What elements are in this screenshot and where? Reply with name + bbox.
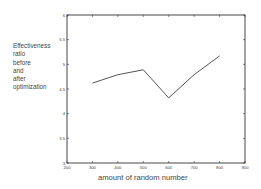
x-tick-label: 600 <box>165 165 173 170</box>
x-tick-label: 200 <box>64 165 72 170</box>
y-tick-label: 4.5 <box>59 87 65 92</box>
y-tick-label: 4 <box>63 111 66 116</box>
plot-axes <box>67 15 245 163</box>
axis-ticks: 20030040050060070080090033.544.555.56 <box>59 13 249 171</box>
plot-frame <box>67 15 245 163</box>
x-tick-label: 300 <box>89 165 97 170</box>
x-tick-label: 800 <box>216 165 224 170</box>
y-axis-label-line: Effectiveness <box>13 42 50 50</box>
y-axis-label-line: after <box>13 75 50 83</box>
x-tick-label: 700 <box>191 165 199 170</box>
x-axis-label: amount of random number <box>98 173 188 182</box>
y-axis-label-line: and <box>13 67 50 75</box>
y-axis-label-line: ratio <box>13 50 50 58</box>
y-axis-label-line: before <box>13 59 50 67</box>
x-tick-label: 500 <box>140 165 148 170</box>
line-chart: 20030040050060070080090033.544.555.56 <box>0 0 261 189</box>
y-tick-label: 6 <box>63 13 66 18</box>
x-tick-label: 400 <box>114 165 122 170</box>
y-axis-label-line: optimization <box>13 83 50 91</box>
x-tick-label: 900 <box>242 165 250 170</box>
y-tick-label: 5.5 <box>59 37 65 42</box>
data-series-line <box>92 56 219 98</box>
y-axis-label: Effectivenessratiobeforeandafteroptimiza… <box>13 42 50 92</box>
y-tick-label: 5 <box>63 62 66 67</box>
y-tick-label: 3.5 <box>59 136 65 141</box>
